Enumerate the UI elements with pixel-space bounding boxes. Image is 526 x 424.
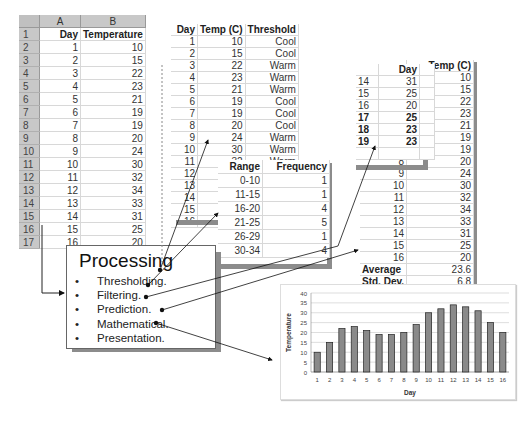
mathematical-dot (160, 308, 164, 312)
filtering-arrow (148, 213, 218, 285)
raw-to-processing-arrow (42, 225, 64, 293)
connectors (0, 0, 526, 424)
thresholding-arrow (160, 140, 208, 270)
mathematical-arrow (162, 250, 358, 310)
prediction-arrow (146, 146, 375, 297)
prediction-dot (144, 295, 148, 299)
presentation-dot (154, 321, 158, 325)
presentation-arrow (156, 323, 272, 360)
filtering-dot (146, 283, 150, 287)
thresholding-dot (158, 268, 162, 272)
